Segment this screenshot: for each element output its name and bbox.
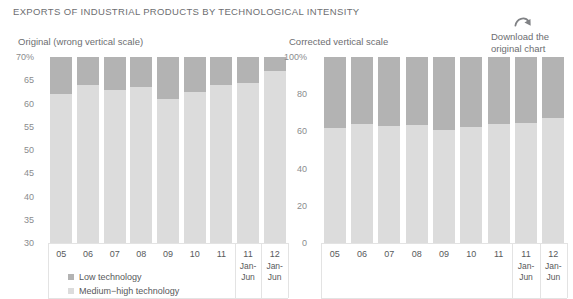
x-axis-year: 11 — [485, 247, 512, 261]
bar-segment-medium-high-technology — [210, 85, 232, 243]
stacked-bar[interactable] — [378, 57, 400, 243]
y-axis-tick-label: 100% — [269, 52, 307, 62]
y-axis-tick-label: 80 — [269, 89, 307, 99]
x-axis-period: Jun — [235, 272, 262, 283]
x-axis-tick-label: 11Jan-Jun — [512, 247, 539, 283]
stacked-bar[interactable] — [184, 57, 206, 243]
x-axis-separator — [512, 243, 513, 298]
x-axis-year: 06 — [75, 247, 102, 261]
x-axis-tick-label: 07 — [376, 247, 403, 261]
y-axis-tick-label: 40 — [269, 164, 307, 174]
y-axis-tick-label: 55 — [0, 122, 34, 132]
bar-segment-medium-high-technology — [104, 90, 126, 243]
legend-item[interactable]: Low technology — [68, 272, 179, 282]
legend-label: Medium−high technology — [79, 286, 179, 296]
stacked-bar[interactable] — [237, 57, 259, 243]
chart-panel-original: Original (wrong vertical scale) 70%65605… — [0, 34, 290, 299]
x-axis-line — [48, 243, 288, 244]
x-axis-tick-label: 08 — [128, 247, 155, 261]
stacked-bar[interactable] — [460, 57, 482, 243]
y-axis-tick-label: 60 — [269, 126, 307, 136]
bar-segment-medium-high-technology — [488, 124, 510, 243]
stacked-bar[interactable] — [433, 57, 455, 243]
bar-segment-medium-high-technology — [351, 124, 373, 243]
bar-segment-medium-high-technology — [77, 85, 99, 243]
x-axis-year: 07 — [101, 247, 128, 261]
legend-item[interactable]: Medium−high technology — [68, 286, 179, 296]
legend-swatch — [68, 288, 74, 294]
x-axis-tick-label: 05 — [321, 247, 348, 261]
x-axis-tick-label: 05 — [48, 247, 75, 261]
stacked-bar[interactable] — [50, 57, 72, 243]
bar-segment-low-technology — [406, 57, 428, 125]
x-axis-tick-label: 12Jan-Jun — [261, 247, 288, 283]
bar-segment-low-technology — [104, 57, 126, 90]
stacked-bar[interactable] — [406, 57, 428, 243]
x-axis-year: 10 — [181, 247, 208, 261]
x-axis-separator — [321, 243, 322, 298]
stacked-bar[interactable] — [157, 57, 179, 243]
bar-segment-medium-high-technology — [406, 125, 428, 243]
stacked-bar[interactable] — [130, 57, 152, 243]
bar-segment-low-technology — [157, 57, 179, 99]
bar-segment-low-technology — [324, 57, 346, 128]
bar-segment-medium-high-technology — [460, 127, 482, 243]
x-axis-tick-label: 09 — [430, 247, 457, 261]
x-axis-separator — [48, 243, 49, 298]
bar-segment-low-technology — [515, 57, 537, 123]
x-axis-year: 12 — [261, 247, 288, 261]
bar-segment-medium-high-technology — [433, 130, 455, 243]
bar-segment-low-technology — [542, 57, 564, 118]
bar-segment-low-technology — [184, 57, 206, 92]
legend-swatch — [68, 274, 74, 280]
x-axis-year: 09 — [155, 247, 182, 261]
x-axis-year: 11 — [208, 247, 235, 261]
bar-segment-low-technology — [351, 57, 373, 124]
bar-segment-low-technology — [210, 57, 232, 85]
plot-area-original: 70%65605550454035300506070809101111Jan-J… — [0, 34, 290, 299]
stacked-bar[interactable] — [351, 57, 373, 243]
x-axis-separator — [540, 243, 541, 298]
y-axis-tick-label: 40 — [0, 192, 34, 202]
y-axis-tick-label: 0 — [269, 238, 307, 248]
x-axis-year: 06 — [348, 247, 375, 261]
bar-segment-low-technology — [378, 57, 400, 126]
x-axis-separator — [567, 243, 568, 298]
x-axis-tick-label: 11 — [485, 247, 512, 261]
bar-segment-low-technology — [77, 57, 99, 85]
y-axis-tick-label: 35 — [0, 215, 34, 225]
stacked-bar[interactable] — [210, 57, 232, 243]
curved-arrow-down-right-icon — [513, 14, 533, 30]
bar-segment-low-technology — [50, 57, 72, 94]
x-axis-year: 07 — [376, 247, 403, 261]
x-axis-year: 11 — [512, 247, 539, 261]
bar-segment-low-technology — [488, 57, 510, 124]
x-axis-period: Jan- — [261, 261, 288, 272]
stacked-bar[interactable] — [488, 57, 510, 243]
chart-legend: Low technologyMedium−high technology — [68, 272, 179, 299]
bar-segment-medium-high-technology — [237, 83, 259, 243]
stacked-bar[interactable] — [104, 57, 126, 243]
y-axis-tick-label: 65 — [0, 75, 34, 85]
bar-segment-medium-high-technology — [515, 123, 537, 243]
x-axis-tick-label: 07 — [101, 247, 128, 261]
x-axis-year: 08 — [403, 247, 430, 261]
stacked-bar[interactable] — [542, 57, 564, 243]
page-title: EXPORTS OF INDUSTRIAL PRODUCTS BY TECHNO… — [13, 6, 360, 17]
y-axis-tick-label: 20 — [269, 201, 307, 211]
x-axis-year: 08 — [128, 247, 155, 261]
stacked-bar[interactable] — [515, 57, 537, 243]
x-axis-year: 10 — [458, 247, 485, 261]
x-axis-tick-label: 08 — [403, 247, 430, 261]
stacked-bar[interactable] — [264, 57, 286, 243]
x-axis-tick-label: 12Jan-Jun — [540, 247, 567, 283]
x-axis-line — [321, 243, 567, 244]
y-axis-tick-label: 30 — [0, 238, 34, 248]
bar-segment-low-technology — [130, 57, 152, 87]
x-axis-period: Jun — [540, 272, 567, 283]
x-axis-period: Jun — [261, 272, 288, 283]
stacked-bar[interactable] — [324, 57, 346, 243]
x-axis-year: 09 — [430, 247, 457, 261]
stacked-bar[interactable] — [77, 57, 99, 243]
y-axis-tick-label: 70% — [0, 52, 34, 62]
